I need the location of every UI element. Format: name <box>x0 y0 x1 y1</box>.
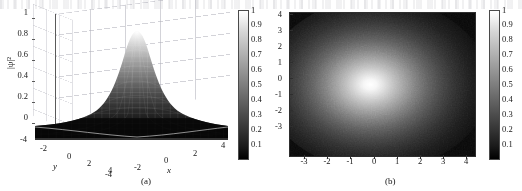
x-tick-mark <box>327 155 328 159</box>
colorbar-tick-label: 0.6 <box>502 65 513 74</box>
colorbar-tick-label: 0.5 <box>502 80 513 89</box>
x-axis-label: x <box>167 165 171 175</box>
panel-b-plot-area <box>289 12 476 157</box>
y-tick-mark <box>289 94 293 95</box>
z-tick-mark <box>32 60 35 61</box>
colorbar-tick-label: 0.9 <box>502 20 513 29</box>
colorbar-tick-label: 0.2 <box>502 125 513 134</box>
panel-b-y-tick-labels: 4 3 2 1 0 -1 -2 -3 <box>261 12 286 155</box>
x-tick-mark <box>466 155 467 159</box>
figure-container: 1 0.8 0.6 0.4 0.2 0 |ψ|² -4 -2 0 2 4 y -… <box>0 0 522 191</box>
colorbar-tick-label: 0.7 <box>502 50 513 59</box>
y-tick-label: 0 <box>67 151 71 161</box>
x-tick-label: -4 <box>105 169 112 179</box>
z-tick-mark <box>32 102 35 103</box>
y-tick-label: -2 <box>275 106 282 115</box>
x-tick-mark <box>420 155 421 159</box>
panel-a-x-axis: -4 -2 0 2 4 x <box>105 138 233 176</box>
panel-a-caption: (a) <box>141 176 151 186</box>
colorbar-tick-label: 1 <box>251 6 255 15</box>
x-tick-mark <box>374 155 375 159</box>
panel-b-density-map: 4 3 2 1 0 -1 -2 -3 -3 -2 -1 0 1 2 3 4 <box>261 0 522 191</box>
panel-b-colorbar: 1 0.9 0.8 0.7 0.6 0.5 0.4 0.3 0.2 0.1 <box>489 10 522 160</box>
y-tick-label: 4 <box>278 10 282 19</box>
colorbar-gradient <box>489 10 500 160</box>
x-tick-label: 2 <box>193 148 197 158</box>
colorbar-tick-label: 1 <box>502 6 506 15</box>
colorbar-gradient <box>238 10 249 160</box>
colorbar-tick-label: 0.3 <box>502 110 513 119</box>
y-tick-label: 3 <box>278 26 282 35</box>
colorbar-tick-label: 0.8 <box>502 35 513 44</box>
panel-a-plot-area <box>33 14 230 140</box>
z-tick-label: 0 <box>24 113 28 122</box>
z-tick-mark <box>32 18 35 19</box>
panel-a-z-axis-label: |ψ|² <box>5 37 15 89</box>
panel-b-x-tick-labels: -3 -2 -1 0 1 2 3 4 <box>261 157 491 173</box>
y-tick-mark <box>289 62 293 63</box>
panel-b-caption: (b) <box>385 176 396 186</box>
z-tick-label: 0.2 <box>17 92 28 101</box>
y-tick-label: -1 <box>275 90 282 99</box>
y-tick-label: 0 <box>278 74 282 83</box>
y-tick-label: -2 <box>40 143 47 153</box>
z-tick-label: 0.8 <box>17 29 28 38</box>
x-tick-mark <box>350 155 351 159</box>
gaussian-density-image <box>290 13 475 156</box>
x-tick-mark <box>443 155 444 159</box>
y-tick-label: -3 <box>275 122 282 131</box>
z-tick-mark <box>32 39 35 40</box>
panel-a-surface-plot: 1 0.8 0.6 0.4 0.2 0 |ψ|² -4 -2 0 2 4 y -… <box>0 0 261 191</box>
x-tick-label: 0 <box>164 155 168 165</box>
y-tick-mark <box>289 14 293 15</box>
gaussian-surface-mesh <box>33 14 230 140</box>
colorbar-tick-label: 0.4 <box>502 95 513 104</box>
y-tick-label: -4 <box>20 134 27 144</box>
y-tick-label: 2 <box>87 158 91 168</box>
x-tick-mark <box>397 155 398 159</box>
z-axis-label-text: |ψ|² <box>5 57 15 69</box>
y-tick-mark <box>289 30 293 31</box>
colorbar-tick-label: 0.1 <box>502 140 513 149</box>
x-tick-label: 4 <box>221 140 225 150</box>
z-tick-label: 0.6 <box>17 50 28 59</box>
y-tick-mark <box>289 78 293 79</box>
y-tick-label: 1 <box>278 58 282 67</box>
y-axis-label: y <box>53 161 57 171</box>
y-tick-mark <box>289 126 293 127</box>
z-tick-label: 1 <box>24 8 28 17</box>
x-tick-mark <box>304 155 305 159</box>
y-tick-mark <box>289 110 293 111</box>
y-tick-mark <box>289 46 293 47</box>
z-tick-mark <box>32 81 35 82</box>
z-tick-mark <box>32 123 35 124</box>
x-tick-label: -2 <box>134 162 141 172</box>
y-tick-label: 2 <box>278 42 282 51</box>
z-tick-label: 0.4 <box>17 71 28 80</box>
